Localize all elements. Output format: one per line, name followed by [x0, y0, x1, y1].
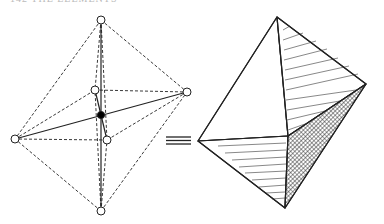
identity-sign — [166, 137, 191, 144]
ball-and-stick-diagram — [11, 16, 191, 215]
solid-octahedron — [198, 17, 366, 208]
central-atom — [97, 111, 104, 118]
octahedron-figure — [0, 0, 384, 224]
